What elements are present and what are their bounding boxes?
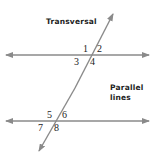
angle-5-label: 5 <box>47 110 52 120</box>
angle-1-label: 1 <box>83 44 88 54</box>
angle-6-label: 6 <box>62 110 67 120</box>
angle-8-label: 8 <box>54 123 59 133</box>
angle-3-label: 3 <box>74 57 79 67</box>
parallel-lines-label-1: Parallel <box>110 83 144 93</box>
parallel-lines-label-2: lines <box>110 93 131 103</box>
angle-4-label: 4 <box>90 57 95 67</box>
transversal-label: Transversal <box>46 17 97 27</box>
angle-7-label: 7 <box>38 123 43 133</box>
transversal-line-down <box>39 88 75 151</box>
angle-2-label: 2 <box>97 44 102 54</box>
